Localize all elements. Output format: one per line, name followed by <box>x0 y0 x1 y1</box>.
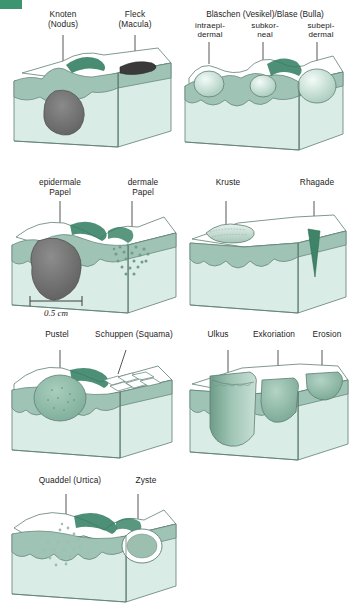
label-zyste: Zyste <box>120 476 172 486</box>
label-subkorneal: subkor- neal <box>239 21 291 40</box>
panel-quaddel-zyste: Quaddel (Urtica) Zyste <box>8 476 188 608</box>
label-exkoriation: Exkoriation <box>240 330 308 340</box>
lesion-pustel <box>34 375 86 421</box>
panel-nodus-macula: Knoten (Nodus) Fleck (Macula) <box>8 8 178 160</box>
scale-bar-label: 0.5 cm <box>44 308 68 318</box>
label-intraepidermal-line1: intraepi- <box>179 21 241 30</box>
label-subepidermal: subepi- dermal <box>293 21 349 40</box>
label-subepidermal-line1: subepi- <box>293 21 349 30</box>
label-rhagade: Rhagade <box>284 178 350 188</box>
label-kruste-line1: Kruste <box>194 178 262 188</box>
skin-block-kruste-rhagade <box>186 201 351 323</box>
label-fleck: Fleck (Macula) <box>100 10 170 29</box>
label-subkorneal-line2: neal <box>239 30 291 39</box>
label-subkorneal-line1: subkor- <box>239 21 291 30</box>
label-ulkus-line1: Ulkus <box>190 330 246 340</box>
label-intraepidermal: intraepi- dermal <box>179 21 241 40</box>
leader-schuppen <box>118 350 126 374</box>
figure-page: Knoten (Nodus) Fleck (Macula) <box>0 0 353 611</box>
label-pustel: Pustel <box>26 330 88 340</box>
skin-block-pustel-schuppen <box>8 350 186 468</box>
label-fleck-line2: (Macula) <box>100 20 170 30</box>
heading-blaeschen: Bläschen (Vesikel)/Blase (Bulla) <box>181 10 349 20</box>
label-kruste: Kruste <box>194 178 262 188</box>
panel-ulkus: Ulkus Exkoriation Erosion <box>188 330 351 470</box>
lesion-subkorneal <box>250 75 276 97</box>
label-ulkus: Ulkus <box>190 330 246 340</box>
label-exkoriation-line1: Exkoriation <box>240 330 308 340</box>
label-epidermale-papel-line2: Papel <box>20 188 100 198</box>
label-dermale-papel: dermale Papel <box>108 178 178 197</box>
skin-block-quaddel-zyste <box>8 494 188 608</box>
label-dermale-papel-line2: Papel <box>108 188 178 198</box>
label-quaddel: Quaddel (Urtica) <box>18 476 122 486</box>
skin-block-ulkus <box>188 350 351 468</box>
skin-block-blaeschen <box>181 42 349 160</box>
label-rhagade-line1: Rhagade <box>284 178 350 188</box>
label-schuppen: Schuppen (Squama) <box>84 330 184 340</box>
panel-pustel-schuppen: Pustel Schuppen (Squama) <box>8 330 186 470</box>
label-quaddel-line1: Quaddel (Urtica) <box>18 476 122 486</box>
label-subepidermal-line2: dermal <box>293 30 349 39</box>
label-pustel-line1: Pustel <box>26 330 88 340</box>
panel-papel: epidermale Papel dermale Papel <box>8 178 183 323</box>
label-schuppen-line1: Schuppen (Squama) <box>84 330 184 340</box>
label-knoten-line2: (Nodus) <box>28 20 98 30</box>
skin-block-nodus-macula <box>8 35 178 160</box>
label-erosion: Erosion <box>302 330 352 340</box>
label-erosion-line1: Erosion <box>302 330 352 340</box>
label-zyste-line1: Zyste <box>120 476 172 486</box>
label-intraepidermal-line2: dermal <box>179 30 241 39</box>
label-knoten: Knoten (Nodus) <box>28 10 98 29</box>
lesion-exkoriation <box>261 378 299 422</box>
label-epidermale-papel: epidermale Papel <box>20 178 100 197</box>
panel-kruste-rhagade: Kruste Rhagade <box>186 178 351 323</box>
panel-blaeschen: Bläschen (Vesikel)/Blase (Bulla) intraep… <box>181 8 349 160</box>
lesion-subepidermal <box>298 69 336 103</box>
lesion-intraepidermal <box>194 71 224 97</box>
skin-block-papel: 0.5 cm <box>8 201 183 323</box>
